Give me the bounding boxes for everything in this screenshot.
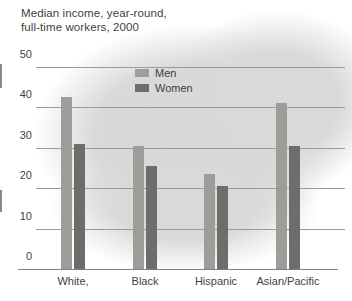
plot-area: 50403020100White,BlackHispanicAsian/Paci… [0, 0, 352, 301]
gridline-40 [36, 107, 345, 108]
y-tick-label-50: 50 [0, 48, 32, 62]
legend-swatch-men-icon [135, 69, 149, 77]
chart-figure: Median income, year-round, full-time wor… [0, 0, 352, 301]
legend-swatch-women-icon [135, 84, 149, 92]
legend-item-women: Women [135, 80, 193, 95]
y-tick-label-0: 0 [0, 250, 32, 264]
x-axis-line [18, 269, 338, 270]
bar-women-2 [146, 166, 157, 269]
bar-men-1 [61, 97, 72, 269]
bar-men-4 [276, 103, 287, 269]
bar-women-4 [289, 146, 300, 269]
bar-women-1 [74, 144, 85, 269]
x-category-label-4: Asian/Pacific [243, 275, 333, 287]
bar-men-2 [133, 146, 144, 269]
y-tick-label-20: 20 [0, 169, 32, 183]
bar-women-3 [217, 186, 228, 269]
legend: Men Women [135, 65, 193, 95]
y-tick-label-30: 30 [0, 129, 32, 143]
y-tick-label-10: 10 [0, 210, 32, 224]
bar-men-3 [204, 174, 215, 269]
legend-item-men: Men [135, 65, 193, 80]
y-tick-label-40: 40 [0, 88, 32, 102]
legend-label-women: Women [155, 82, 193, 94]
legend-label-men: Men [155, 67, 176, 79]
